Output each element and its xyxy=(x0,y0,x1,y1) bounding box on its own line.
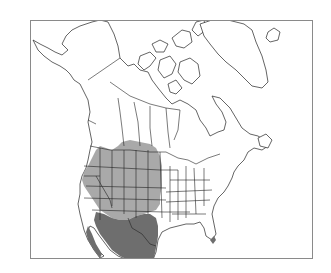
iceland xyxy=(266,28,280,42)
arctic-island-6 xyxy=(168,80,182,94)
arctic-island-2 xyxy=(152,40,168,52)
greenland xyxy=(200,20,268,88)
arctic-island-3 xyxy=(158,56,176,78)
arctic-island-4 xyxy=(172,30,192,48)
arctic-island-1 xyxy=(138,52,156,70)
arctic-island-5 xyxy=(178,58,200,84)
newfoundland xyxy=(258,134,272,148)
north-america-range-map xyxy=(0,0,331,273)
